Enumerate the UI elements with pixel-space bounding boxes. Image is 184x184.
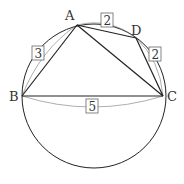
length-label-bc: 5 [86,99,98,114]
point-label-d: D [131,23,141,38]
point-label-b: B [9,89,19,104]
length-value-ad: 2 [104,14,112,28]
segment-ab [22,25,77,96]
geometry-diagram: A B C D 3 2 2 5 [0,0,184,184]
point-label-a: A [64,8,75,23]
length-value-dc: 2 [152,48,160,62]
length-label-ab: 3 [32,46,44,61]
length-label-dc: 2 [149,47,161,62]
length-value-ab: 3 [35,47,43,61]
length-value-bc: 5 [89,100,97,114]
point-label-c: C [167,89,177,104]
length-label-ad: 2 [101,13,113,28]
